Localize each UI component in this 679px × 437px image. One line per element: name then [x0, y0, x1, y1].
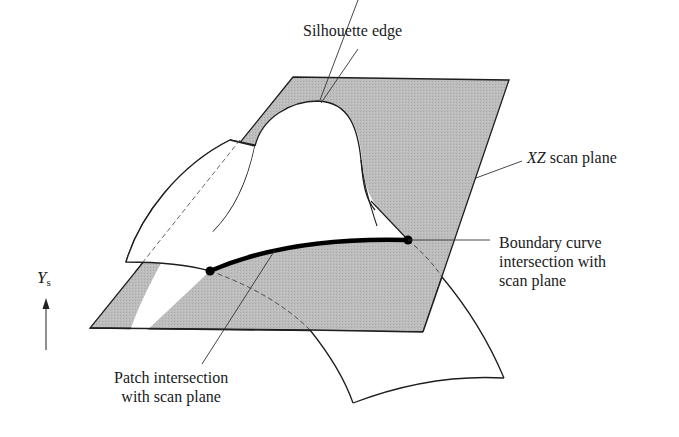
label-ys-axis: Ys — [37, 268, 51, 292]
label-ys-subscript: s — [46, 276, 50, 288]
label-boundary-line1: Boundary curve — [499, 233, 606, 252]
scan-plane-diagram — [0, 0, 679, 437]
label-xz-italic: XZ — [527, 149, 546, 166]
label-silhouette-edge: Silhouette edge — [303, 21, 402, 40]
label-xz-scan-plane: XZ scan plane — [527, 148, 617, 167]
leader-xz-plane — [476, 161, 522, 178]
label-boundary-line2: intersection with — [499, 252, 606, 271]
boundary-point-left — [206, 267, 215, 276]
label-boundary-line3: scan plane — [499, 271, 606, 290]
ys-arrow-head-icon — [43, 298, 50, 309]
label-boundary-curve: Boundary curve intersection with scan pl… — [499, 233, 606, 290]
label-patch-line2: with scan plane — [114, 387, 228, 406]
label-patch-intersection: Patch intersection with scan plane — [114, 368, 228, 406]
label-xz-rest: scan plane — [546, 149, 617, 166]
label-patch-line1: Patch intersection — [114, 368, 228, 387]
